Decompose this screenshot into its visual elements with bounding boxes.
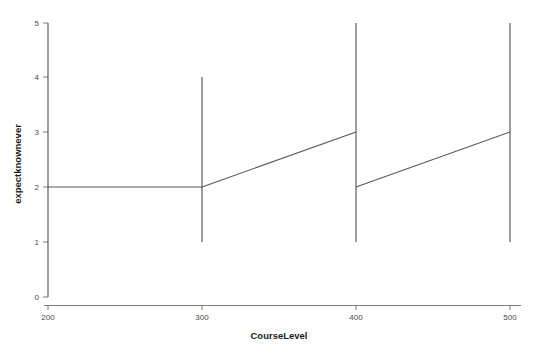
chart-background	[0, 0, 536, 345]
y-axis-title: expectknownever	[12, 124, 23, 204]
y-tick-label-0: 0	[35, 293, 40, 302]
y-tick-label-3: 3	[35, 128, 40, 137]
y-tick-label-4: 4	[35, 73, 40, 82]
y-tick-label-1: 1	[35, 238, 40, 247]
x-tick-label-400: 400	[349, 313, 363, 322]
y-tick-label-2: 2	[35, 183, 40, 192]
x-axis-title: CourseLevel	[250, 330, 307, 341]
x-tick-label-200: 200	[41, 313, 55, 322]
y-tick-label-5: 5	[35, 19, 40, 28]
errorbar-line-chart: 5 4 3 2 1 0 200 300 400 500 CourseLevel …	[0, 0, 536, 345]
x-tick-label-500: 500	[503, 313, 517, 322]
x-tick-label-300: 300	[195, 313, 209, 322]
chart-container: 5 4 3 2 1 0 200 300 400 500 CourseLevel …	[0, 0, 536, 345]
